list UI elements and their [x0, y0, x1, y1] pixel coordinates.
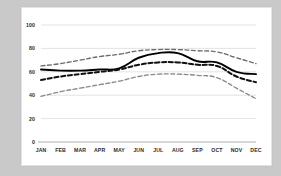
- gridlines: [41, 25, 256, 119]
- y-tick-label: 40: [19, 92, 35, 98]
- y-tick-label: 20: [19, 116, 35, 122]
- x-tick-label-may: MAY: [109, 147, 129, 153]
- x-tick-label-aug: AUG: [168, 147, 188, 153]
- x-tick-label-nov: NOV: [226, 147, 246, 153]
- x-tick-label-jul: JUL: [148, 147, 168, 153]
- y-tick-label: 60: [19, 69, 35, 75]
- x-tick-label-jan: JAN: [31, 147, 51, 153]
- y-tick-label: 80: [19, 45, 35, 51]
- x-tick-label-sep: SEP: [187, 147, 207, 153]
- x-tick-label-dec: DEC: [246, 147, 266, 153]
- x-tick-label-jun: JUN: [129, 147, 149, 153]
- series-layer: [41, 49, 256, 98]
- x-tick-label-feb: FEB: [51, 147, 71, 153]
- x-tick-label-apr: APR: [90, 147, 110, 153]
- x-tick-label-mar: MAR: [70, 147, 90, 153]
- chart-frame: 020406080100 JANFEBMARAPRMAYJUNJULAUGSEP…: [0, 0, 281, 176]
- x-tick-label-oct: OCT: [207, 147, 227, 153]
- y-tick-label: 100: [19, 22, 35, 28]
- y-tick-label: 0: [19, 139, 35, 145]
